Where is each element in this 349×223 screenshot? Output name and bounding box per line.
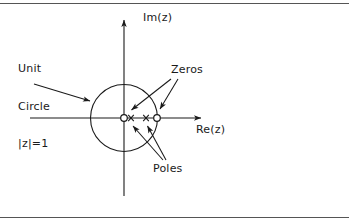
zero-marker-origin [121,115,128,122]
real-axis-label: Re(z) [196,124,225,137]
unit-circle-label-line-1: Unit [18,63,50,76]
unit-circle-label-line-3: |z|=1 [18,138,50,151]
pole-zero-figure: Im(z) Re(z) Zeros Poles Unit Circle |z|=… [0,0,349,223]
unit-circle-label-line-2: Circle [18,101,50,114]
poles-leader-arrow-outer [148,126,167,160]
unit-circle-annotation-label: Unit Circle |z|=1 [18,38,50,176]
poles-annotation-label: Poles [153,163,183,176]
zeros-leader-arrow-origin [132,79,172,110]
poles-leader-arrow-inner [133,126,163,160]
zeros-leader-arrow-unit [160,79,178,109]
imaginary-axis-label: Im(z) [143,12,172,25]
zeros-annotation-label: Zeros [171,64,203,77]
zero-marker-unit [154,115,161,122]
diagram-canvas [0,0,349,223]
